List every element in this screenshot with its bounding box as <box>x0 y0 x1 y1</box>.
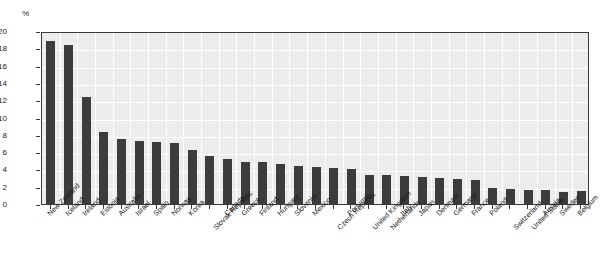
x-tick-mark <box>474 205 475 209</box>
x-tick-mark <box>209 205 210 209</box>
x-tick-mark <box>562 205 563 209</box>
x-tick-mark <box>333 205 334 209</box>
bar <box>524 190 533 204</box>
bar <box>117 139 126 204</box>
bar <box>418 177 427 204</box>
bar <box>506 189 515 204</box>
bar <box>64 45 73 204</box>
bar <box>258 162 267 204</box>
bar <box>312 167 321 204</box>
x-tick-mark <box>350 205 351 209</box>
bar <box>82 97 91 204</box>
bar <box>541 190 550 204</box>
x-tick-mark <box>439 205 440 209</box>
x-tick-mark <box>280 205 281 209</box>
bar <box>205 156 214 204</box>
bar <box>347 169 356 204</box>
x-tick-mark <box>85 205 86 209</box>
x-tick-mark <box>227 205 228 209</box>
bar <box>471 180 480 204</box>
x-tick-mark <box>368 205 369 209</box>
x-tick-mark <box>191 205 192 209</box>
bar <box>188 150 197 204</box>
x-tick-mark <box>456 205 457 209</box>
bar <box>400 176 409 204</box>
y-tick-mark <box>36 101 40 102</box>
x-tick-mark <box>50 205 51 209</box>
y-tick-label: 4 <box>3 166 7 174</box>
x-tick-mark <box>244 205 245 209</box>
y-tick-mark <box>36 188 40 189</box>
bar <box>135 141 144 204</box>
bar <box>46 41 55 204</box>
y-tick-label: 14 <box>0 80 7 88</box>
y-tick-label: 2 <box>3 184 7 192</box>
y-tick-label: 16 <box>0 63 7 71</box>
x-tick-mark <box>156 205 157 209</box>
x-tick-mark <box>262 205 263 209</box>
y-tick-mark <box>36 119 40 120</box>
bar <box>453 179 462 204</box>
bar <box>435 178 444 204</box>
y-tick-mark <box>36 205 40 206</box>
x-tick-mark <box>174 205 175 209</box>
x-tick-mark <box>545 205 546 209</box>
x-tick-mark <box>103 205 104 209</box>
x-tick-mark <box>68 205 69 209</box>
y-tick-label: 6 <box>3 149 7 157</box>
y-tick-label: 0 <box>3 201 7 209</box>
y-tick-mark <box>36 153 40 154</box>
x-tick-mark <box>492 205 493 209</box>
y-axis: 02468101214161820 <box>0 0 41 279</box>
y-tick-mark <box>36 84 40 85</box>
bar <box>577 191 586 204</box>
y-tick-mark <box>36 49 40 50</box>
y-tick-label: 20 <box>0 28 7 36</box>
y-tick-mark <box>36 67 40 68</box>
x-tick-mark <box>386 205 387 209</box>
bar <box>276 164 285 204</box>
bar-series <box>42 33 588 204</box>
y-tick-label: 18 <box>0 45 7 53</box>
bar <box>152 142 161 204</box>
x-tick-mark <box>580 205 581 209</box>
bar <box>329 168 338 204</box>
bar <box>170 143 179 204</box>
x-tick-mark <box>121 205 122 209</box>
bar <box>382 175 391 204</box>
x-tick-mark <box>509 205 510 209</box>
x-tick-mark <box>421 205 422 209</box>
y-tick-mark <box>36 32 40 33</box>
bar <box>365 175 374 204</box>
bar <box>223 159 232 204</box>
x-tick-mark <box>297 205 298 209</box>
y-tick-mark <box>36 136 40 137</box>
bar <box>559 192 568 204</box>
y-tick-label: 10 <box>0 115 7 123</box>
bar <box>294 166 303 204</box>
y-tick-label: 8 <box>3 132 7 140</box>
bar <box>99 132 108 204</box>
x-tick-mark <box>527 205 528 209</box>
bar <box>488 188 497 204</box>
x-tick-mark <box>138 205 139 209</box>
x-tick-mark <box>315 205 316 209</box>
x-tick-mark <box>403 205 404 209</box>
y-tick-label: 12 <box>0 97 7 105</box>
y-tick-mark <box>36 170 40 171</box>
bar <box>241 162 250 204</box>
plot-area <box>41 32 589 205</box>
